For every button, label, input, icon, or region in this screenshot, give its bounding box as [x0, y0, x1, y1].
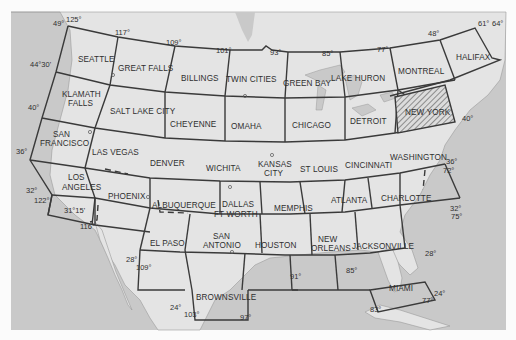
lat-24-east: 24° — [434, 289, 445, 298]
label-san-francisco-2[interactable]: FRANCISCO — [40, 139, 89, 148]
lat-28-east: 28° — [425, 249, 436, 258]
label-el-paso[interactable]: EL PASO — [150, 239, 185, 248]
label-phoenix[interactable]: PHOENIX — [108, 192, 146, 201]
label-seattle[interactable]: SEATTLE — [78, 55, 115, 64]
lat-36-east: 36° — [446, 157, 457, 166]
label-atlanta[interactable]: ATLANTA — [331, 196, 368, 205]
lon-125: 125° — [66, 15, 82, 24]
label-kansas-city[interactable]: KANSAS — [258, 160, 292, 169]
label-houston[interactable]: HOUSTON — [255, 241, 297, 250]
label-wichita[interactable]: WICHITA — [206, 164, 241, 173]
label-chicago[interactable]: CHICAGO — [292, 121, 331, 130]
lon-72: 72° — [443, 166, 454, 175]
label-los-angeles-2[interactable]: ANGELES — [62, 183, 102, 192]
lon-109-north: 109° — [166, 38, 182, 47]
lat-31-15: 31°15' — [64, 206, 86, 215]
lat-44-30: 44°30' — [30, 60, 52, 69]
label-great-falls[interactable]: GREAT FALLS — [118, 64, 174, 73]
label-las-vegas[interactable]: LAS VEGAS — [92, 148, 139, 157]
label-kansas-city-2[interactable]: CITY — [264, 169, 283, 178]
lat-24: 24° — [170, 303, 181, 312]
label-new-orleans-2[interactable]: ORLEANS — [311, 244, 351, 253]
label-denver[interactable]: DENVER — [150, 159, 185, 168]
label-san-francisco[interactable]: SAN — [53, 130, 70, 139]
label-montreal[interactable]: MONTREAL — [398, 67, 445, 76]
label-new-york[interactable]: NEW YORK — [405, 108, 451, 117]
lon-61: 61° — [478, 19, 489, 28]
lat-48-east: 48° — [428, 29, 439, 38]
lon-122: 122° — [34, 196, 50, 205]
label-washington[interactable]: WASHINGTON — [390, 153, 447, 162]
lon-97: 97° — [240, 313, 251, 322]
lat-40-east: 40° — [462, 114, 473, 123]
lon-109-south: 109° — [136, 263, 152, 272]
lat-49-west: 49° — [53, 19, 64, 28]
sectional-chart-index-map: SEATTLE GREAT FALLS BILLINGS TWIN CITIES… — [0, 0, 516, 340]
label-dallas[interactable]: DALLAS — [222, 200, 254, 209]
label-halifax[interactable]: HALIFAX — [456, 53, 491, 62]
lon-85-south: 85° — [346, 266, 357, 275]
label-los-angeles[interactable]: LOS — [68, 173, 85, 182]
lat-32-west: 32° — [26, 186, 37, 195]
label-cheyenne[interactable]: CHEYENNE — [170, 120, 217, 129]
label-twin-cities[interactable]: TWIN CITIES — [226, 75, 277, 84]
lat-36-west: 36° — [16, 147, 27, 156]
label-san-antonio-2[interactable]: ANTONIO — [203, 241, 241, 250]
label-new-orleans[interactable]: NEW — [318, 235, 338, 244]
label-klamath-falls-2[interactable]: FALLS — [68, 99, 94, 108]
label-cincinnati[interactable]: CINCINNATI — [345, 161, 392, 170]
label-ft-worth[interactable]: FT WORTH — [214, 210, 258, 219]
lon-93: 93° — [270, 48, 281, 57]
label-billings[interactable]: BILLINGS — [181, 74, 219, 83]
label-jacksonville[interactable]: JACKSONVILLE — [352, 242, 415, 251]
lon-101: 101° — [216, 46, 232, 55]
label-green-bay[interactable]: GREEN BAY — [283, 79, 332, 88]
lon-103: 103° — [184, 310, 200, 319]
label-miami[interactable]: MIAMI — [389, 284, 413, 293]
label-brownsville[interactable]: BROWNSVILLE — [196, 293, 257, 302]
label-charlotte[interactable]: CHARLOTTE — [381, 194, 432, 203]
lon-77-north: 77° — [377, 45, 388, 54]
label-albuquerque[interactable]: ALBUQUERQUE — [152, 201, 216, 210]
label-lake-huron[interactable]: LAKE HURON — [331, 74, 385, 83]
lon-83: 83° — [370, 305, 381, 314]
lon-91: 91° — [290, 272, 301, 281]
label-san-antonio[interactable]: SAN — [213, 232, 230, 241]
lon-77-south: 77° — [422, 296, 433, 305]
lat-40-west: 40° — [28, 103, 39, 112]
lon-75: 75° — [451, 212, 462, 221]
lon-64: 64° — [492, 19, 503, 28]
label-omaha[interactable]: OMAHA — [231, 122, 262, 131]
label-memphis[interactable]: MEMPHIS — [274, 204, 313, 213]
label-st-louis[interactable]: ST LOUIS — [300, 165, 338, 174]
label-detroit[interactable]: DETROIT — [350, 117, 387, 126]
lon-85-north: 85° — [322, 49, 333, 58]
label-klamath-falls[interactable]: KLAMATH — [62, 90, 101, 99]
label-salt-lake-city[interactable]: SALT LAKE CITY — [110, 107, 176, 116]
lon-117: 117° — [115, 28, 130, 37]
lon-116: 116° — [80, 222, 95, 231]
